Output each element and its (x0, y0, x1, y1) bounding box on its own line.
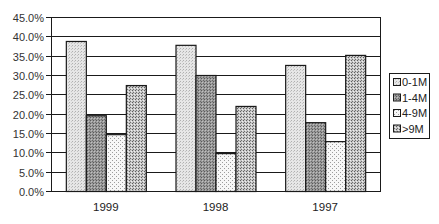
bar-1997-4-9M (326, 142, 346, 192)
legend-item-label: 0-1M (402, 76, 427, 88)
x-category-label: 1998 (203, 201, 229, 213)
legend-swatch-icon (394, 94, 401, 101)
y-tick-label: 20.0% (13, 109, 44, 121)
legend-item-label: >9M (402, 123, 424, 135)
bar-1999-0-1M (66, 41, 86, 191)
bar-1998->9M (236, 106, 256, 191)
legend-swatch-icon (394, 125, 401, 132)
legend-item-label: 4-9M (402, 107, 427, 119)
x-category-label: 1999 (93, 201, 119, 213)
x-axis: 199919981997 (93, 201, 338, 213)
y-tick-label: 40.0% (13, 31, 44, 43)
bar-1997->9M (346, 55, 366, 191)
bar-1998-4-9M (216, 154, 236, 192)
legend: 0-1M1-4M4-9M>9M (390, 74, 430, 139)
y-tick-label: 45.0% (13, 12, 44, 24)
legend-item-label: 1-4M (402, 92, 427, 104)
y-tick-label: 0.0% (19, 186, 44, 198)
y-tick-label: 10.0% (13, 147, 44, 159)
bar-1997-1-4M (306, 123, 326, 192)
y-tick-label: 5.0% (19, 167, 44, 179)
bar-1999-4-9M (106, 135, 126, 192)
bar-1998-0-1M (176, 45, 196, 191)
y-axis: 0.0%5.0%10.0%15.0%20.0%25.0%30.0%35.0%40… (13, 12, 44, 198)
bar-1999-1-4M (86, 116, 106, 192)
bar-1997-0-1M (286, 65, 306, 191)
y-tick-label: 15.0% (13, 128, 44, 140)
legend-swatch-icon (394, 79, 401, 86)
bar-1999->9M (126, 86, 146, 192)
legend-swatch-icon (394, 110, 401, 117)
bar-chart: 0.0%5.0%10.0%15.0%20.0%25.0%30.0%35.0%40… (0, 0, 439, 224)
y-tick-label: 25.0% (13, 89, 44, 101)
x-category-label: 1997 (312, 201, 338, 213)
bar-1998-1-4M (196, 76, 216, 192)
y-tick-label: 35.0% (13, 51, 44, 63)
y-tick-label: 30.0% (13, 70, 44, 82)
bars (66, 41, 365, 191)
